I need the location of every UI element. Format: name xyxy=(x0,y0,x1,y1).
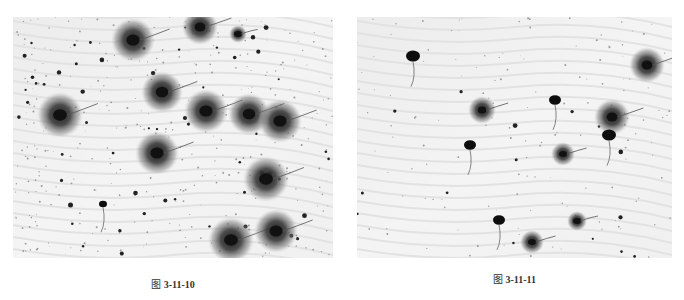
caption-number: 3-11-10 xyxy=(164,279,195,290)
caption-number: 3-11-11 xyxy=(505,274,536,285)
micrograph-svg-left xyxy=(13,17,333,258)
figure-3-11-11: 图 3-11-11 xyxy=(357,17,672,287)
caption-prefix: 图 xyxy=(493,274,503,285)
figure-3-11-10: 图 3-11-10 xyxy=(13,17,333,287)
figure-caption-right: 图 3-11-11 xyxy=(357,271,672,286)
micrograph-image-left xyxy=(13,17,333,258)
figure-caption-left: 图 3-11-10 xyxy=(13,276,333,291)
caption-prefix: 图 xyxy=(151,279,161,290)
micrograph-image-right xyxy=(357,17,672,258)
micrograph-svg-right xyxy=(357,17,672,258)
